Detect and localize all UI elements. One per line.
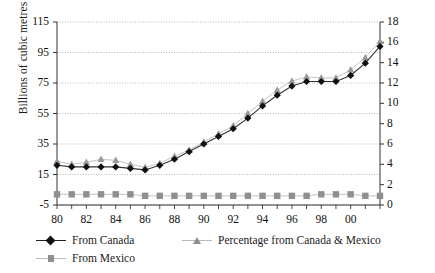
legend-label: From Mexico [72,252,135,264]
y-tick-label: 15 [23,168,49,180]
y-tick-label: 75 [23,76,49,88]
diamond-marker-icon [36,235,66,245]
x-tick-label: 82 [73,213,99,225]
x-tick-label: 88 [161,213,187,225]
y-tick-label-right: 12 [387,76,413,88]
x-tick-label: 84 [103,213,129,225]
y-tick-label-right: 4 [387,157,413,169]
y-tick-label: 95 [23,46,49,58]
x-tick-label: 98 [308,213,334,225]
y-tick-label: 115 [23,15,49,27]
square-marker-icon [36,253,66,263]
legend-item-percentage: Percentage from Canada & Mexico [182,234,381,246]
y-tick-label-right: 16 [387,35,413,47]
y-tick-label-right: 14 [387,56,413,68]
y-tick-label-right: 18 [387,15,413,27]
y-tick-label-right: 10 [387,96,413,108]
triangle-marker-icon [182,235,212,245]
legend-item-from-mexico: From Mexico [36,252,135,264]
x-tick-label: 92 [220,213,246,225]
y-tick-label-right: 6 [387,137,413,149]
x-tick-label: 00 [338,213,364,225]
legend-label: From Canada [72,234,134,246]
x-tick-label: 96 [279,213,305,225]
x-tick-label: 90 [191,213,217,225]
x-tick-label: 86 [132,213,158,225]
y-tick-label: 55 [23,107,49,119]
chart-container: Billions of cubic metres % of total U.S.… [0,0,435,273]
y-tick-label-right: 8 [387,117,413,129]
y-tick-label-right: 0 [387,198,413,210]
x-tick-label: 94 [250,213,276,225]
legend-item-from-canada: From Canada [36,234,134,246]
y-tick-label: -5 [23,198,49,210]
y-tick-label-right: 2 [387,178,413,190]
x-tick-label: 80 [44,213,70,225]
y-tick-label: 35 [23,137,49,149]
legend-label: Percentage from Canada & Mexico [218,234,381,246]
plot-area [0,0,435,273]
